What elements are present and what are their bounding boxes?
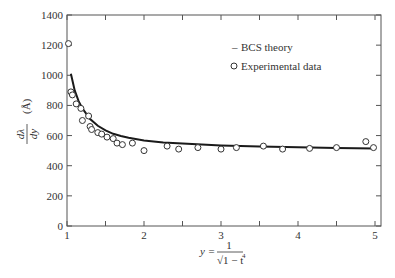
legend-experimental-label: Experimental data	[241, 60, 321, 72]
x-label-numerator: 1	[226, 239, 232, 251]
data-point-marker	[307, 145, 313, 151]
chart-canvas: 12345 0200400600800100012001400 – BCS th…	[0, 0, 395, 278]
data-point-marker	[66, 41, 72, 47]
y-tick-label: 1400	[41, 9, 64, 21]
x-label-denominator: √1 − t	[217, 254, 243, 266]
data-point-marker	[176, 146, 182, 152]
data-point-marker	[86, 113, 92, 119]
x-tick-label: 5	[372, 229, 378, 241]
x-tick-label: 2	[141, 229, 147, 241]
y-label-numerator: dλ	[14, 129, 26, 140]
y-tick-label: 1000	[41, 69, 64, 81]
data-point-marker	[260, 143, 266, 149]
y-label-unit: (Å)	[20, 98, 33, 114]
experimental-data-points	[66, 41, 377, 154]
legend-bcs-label: BCS theory	[241, 41, 293, 53]
y-tick-label: 200	[47, 190, 64, 202]
y-axis-label: dλ dy (Å)	[14, 98, 39, 144]
x-axis-label: y = 1 √1 − t 4	[199, 239, 246, 266]
data-point-marker	[69, 92, 75, 98]
x-tick-label: 1	[64, 229, 70, 241]
x-label-exponent: 4	[242, 252, 246, 260]
data-point-marker	[141, 148, 147, 154]
y-label-denominator: dy	[27, 129, 39, 140]
data-point-marker	[363, 139, 369, 145]
y-tick-label: 1200	[41, 39, 64, 51]
data-point-marker	[78, 105, 84, 111]
legend-line-symbol: –	[231, 41, 238, 53]
y-tick-label: 0	[58, 220, 64, 232]
bcs-theory-curve	[71, 74, 375, 149]
data-point-marker	[73, 101, 79, 107]
data-point-marker	[334, 145, 340, 151]
legend: – BCS theory Experimental data	[231, 41, 321, 72]
data-point-marker	[79, 118, 85, 124]
data-point-marker	[195, 145, 201, 151]
data-point-marker	[218, 146, 224, 152]
data-point-marker	[233, 145, 239, 151]
plot-frame	[67, 15, 381, 226]
data-point-marker	[104, 134, 110, 140]
x-axis-ticks: 12345	[64, 15, 378, 241]
data-point-marker	[129, 140, 135, 146]
legend-circle-icon	[231, 63, 237, 69]
data-point-marker	[89, 127, 95, 133]
data-point-marker	[371, 145, 377, 151]
y-tick-label: 600	[47, 130, 64, 142]
data-point-marker	[119, 142, 125, 148]
data-point-marker	[164, 143, 170, 149]
x-tick-label: 4	[295, 229, 301, 241]
data-point-marker	[280, 146, 286, 152]
x-label-lhs: y =	[199, 245, 215, 257]
x-tick-label: 3	[218, 229, 224, 241]
plot-border	[67, 15, 381, 226]
y-tick-label: 400	[47, 160, 64, 172]
y-tick-label: 800	[47, 99, 64, 111]
